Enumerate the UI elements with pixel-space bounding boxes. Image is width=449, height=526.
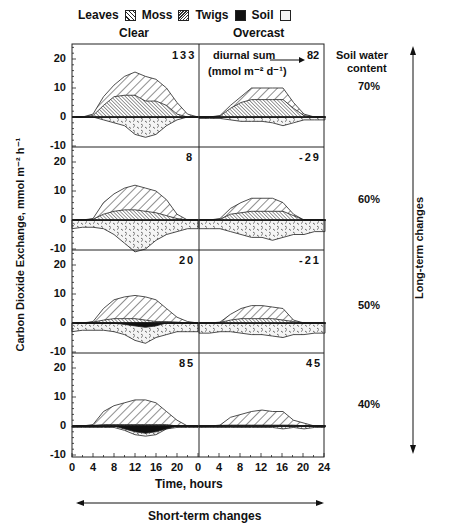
- legend-label-leaves: Leaves: [78, 8, 119, 22]
- legend: Leaves Moss Twigs Soil: [78, 8, 291, 22]
- soil-area: [199, 220, 325, 240]
- y-tick-label: 0: [44, 419, 66, 431]
- sum-70-overcast: 82: [307, 49, 319, 61]
- y-tick-label: 10: [44, 287, 66, 299]
- y-tick-label: 20: [44, 52, 66, 64]
- leaves-swatch-icon: [125, 10, 136, 21]
- y-tick-label: 0: [44, 110, 66, 122]
- legend-label-moss: Moss: [142, 8, 173, 22]
- y-axis-label: Carbon Dioxide Exchange, mmol m⁻² h⁻¹: [14, 152, 27, 352]
- soil-swatch-icon: [280, 10, 291, 21]
- x-tick-label: 12: [125, 461, 145, 473]
- y-tick-label: 20: [44, 361, 66, 373]
- leaves-area: [72, 400, 198, 426]
- y-tick-label: 20: [44, 155, 66, 167]
- sum-60-clear: 8: [186, 151, 192, 163]
- x-tick-label: 20: [293, 461, 313, 473]
- legend-label-twigs: Twigs: [195, 8, 228, 22]
- x-tick-label: 8: [104, 461, 124, 473]
- y-tick-label: -10: [44, 345, 66, 357]
- soil-water-header-line1: Soil water: [336, 49, 388, 61]
- column-title-clear: Clear: [119, 26, 149, 40]
- soil-water-50: 50%: [358, 299, 380, 311]
- y-tick-label: 10: [44, 184, 66, 196]
- x-tick-label: 8: [230, 461, 250, 473]
- x-tick-label: 0: [62, 461, 82, 473]
- diurnal-sum-label: diurnal sum: [213, 49, 275, 61]
- column-title-overcast: Overcast: [233, 26, 284, 40]
- soil-water-70: 70%: [358, 80, 380, 92]
- soil-area: [72, 117, 198, 137]
- y-tick-label: 20: [44, 258, 66, 270]
- sum-70-clear: 133: [172, 49, 196, 61]
- diurnal-sum-units: (mmol m⁻² d⁻¹): [208, 65, 287, 78]
- soil-area: [199, 117, 325, 126]
- soil-water-header-line2: content: [347, 62, 387, 74]
- soil-area: [72, 220, 198, 252]
- sum-40-clear: 85: [179, 357, 195, 369]
- x-axis-label: Time, hours: [155, 477, 223, 491]
- soil-area: [199, 323, 325, 338]
- soil-water-40: 40%: [358, 398, 380, 410]
- y-tick-label: 10: [44, 81, 66, 93]
- sum-50-clear: 20: [179, 254, 195, 266]
- sum-50-overcast: -21: [299, 254, 321, 266]
- y-tick-label: 10: [44, 390, 66, 402]
- short-term-label: Short-term changes: [148, 509, 261, 523]
- x-tick-label: 4: [209, 461, 229, 473]
- x-tick-label: 16: [146, 461, 166, 473]
- x-tick-label: 12: [251, 461, 271, 473]
- x-tick-label: 0: [188, 461, 208, 473]
- x-tick-label: 24: [314, 461, 334, 473]
- x-tick-label: 4: [83, 461, 103, 473]
- y-tick-label: -10: [44, 242, 66, 254]
- y-tick-label: 0: [44, 316, 66, 328]
- sum-60-overcast: -29: [299, 151, 321, 163]
- y-tick-label: 0: [44, 213, 66, 225]
- moss-swatch-icon: [178, 10, 189, 21]
- y-tick-label: -10: [44, 139, 66, 151]
- long-term-label: Long-term changes: [413, 197, 425, 299]
- x-tick-label: 20: [167, 461, 187, 473]
- y-tick-label: -10: [44, 448, 66, 460]
- leaves-area: [199, 410, 325, 426]
- chart-plot-area: [0, 0, 449, 526]
- sum-40-overcast: 45: [306, 357, 322, 369]
- x-tick-label: 16: [272, 461, 292, 473]
- legend-label-soil: Soil: [252, 8, 274, 22]
- twigs-swatch-icon: [235, 10, 246, 21]
- soil-water-60: 60%: [358, 193, 380, 205]
